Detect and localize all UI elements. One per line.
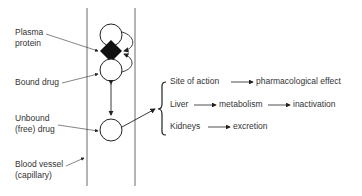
- label-free-drug: (free) drug: [15, 124, 55, 135]
- label-unbound: Unbound: [15, 113, 50, 124]
- site-of-action: Site of action: [170, 76, 219, 87]
- liver: Liver: [170, 99, 188, 110]
- unbound-drug-circle: [100, 119, 122, 141]
- label-plasma: Plasma: [15, 27, 43, 38]
- label-capillary: (capillary): [15, 170, 52, 181]
- label-blood-vessel: Blood vessel: [15, 159, 63, 170]
- inactivation: inactivation: [293, 99, 336, 110]
- kidneys: Kidneys: [170, 121, 200, 132]
- pharmacological-effect: pharmacological effect: [256, 76, 341, 87]
- label-protein: protein: [15, 38, 41, 49]
- label-bound-drug: Bound drug: [15, 77, 59, 88]
- metabolism: metabolism: [219, 99, 262, 110]
- bound-drug-circle: [100, 59, 122, 81]
- excretion: excretion: [233, 121, 268, 132]
- brace: [158, 82, 166, 135]
